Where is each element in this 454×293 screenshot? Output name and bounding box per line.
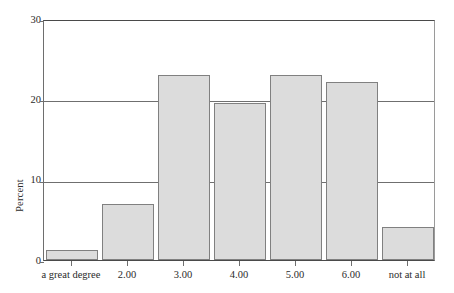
- plot-area: [43, 20, 435, 261]
- bar: [158, 75, 211, 260]
- x-tick-label: not at all: [389, 268, 426, 281]
- x-tick-mark: [351, 261, 352, 266]
- bar: [382, 227, 435, 260]
- x-tick-label: 6.00: [342, 268, 360, 281]
- x-tick-mark: [295, 261, 296, 266]
- bars-layer: [44, 21, 434, 260]
- x-tick-mark: [239, 261, 240, 266]
- y-tick-label: 10: [7, 175, 41, 185]
- x-tick-label: 2.00: [118, 268, 136, 281]
- y-tick-label: 20: [7, 95, 41, 105]
- x-tick-label: 3.00: [174, 268, 192, 281]
- bar-chart: Percent 0102030 a great degree2.003.004.…: [0, 0, 454, 293]
- x-tick-label: 4.00: [230, 268, 248, 281]
- x-tick-mark: [183, 261, 184, 266]
- y-tick-label: 30: [7, 15, 41, 25]
- x-axis-tick-marks: [43, 261, 435, 267]
- y-tick-label: 0: [7, 256, 41, 266]
- x-tick-mark: [407, 261, 408, 266]
- bar: [326, 82, 379, 260]
- x-tick-label: 5.00: [286, 268, 304, 281]
- x-tick-mark: [127, 261, 128, 266]
- x-tick-label: a great degree: [42, 268, 101, 281]
- bar: [270, 75, 323, 260]
- bar: [46, 250, 99, 260]
- x-tick-mark: [71, 261, 72, 266]
- bar: [102, 204, 155, 260]
- x-axis-tick-labels: a great degree2.003.004.005.006.00not at…: [43, 268, 435, 286]
- y-axis-tick-labels: 0102030: [0, 0, 41, 293]
- bar: [214, 103, 267, 260]
